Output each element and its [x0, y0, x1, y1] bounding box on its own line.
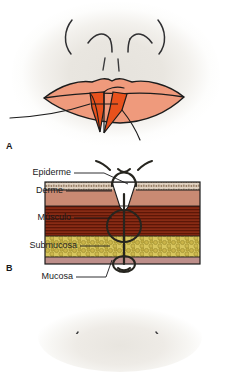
- panel-a-illustration: [0, 0, 241, 160]
- suture-knot: [118, 169, 130, 172]
- layer-mucosa: [45, 257, 200, 264]
- suture-tail-left: [96, 161, 110, 170]
- panel-c-nose-outline: [73, 332, 162, 334]
- panel-c: [0, 296, 241, 334]
- panel-a: A: [0, 0, 241, 160]
- panel-c-illustration: [0, 296, 241, 334]
- label-epiderme: Epiderme: [0, 167, 71, 177]
- panel-b: Epiderme Derme Músculo Submucosa Mucosa: [0, 160, 241, 288]
- nose-outline: [65, 20, 164, 54]
- panel-a-label: A: [6, 141, 13, 151]
- nostril-marks: [103, 58, 119, 71]
- panel-b-illustration: [0, 160, 241, 288]
- suture-tail-right: [138, 161, 152, 170]
- suture-mucosa-knot: [118, 268, 130, 270]
- label-derme: Derme: [0, 185, 63, 195]
- label-submucosa: Submucosa: [0, 240, 77, 250]
- label-musculo: Músculo: [0, 212, 71, 222]
- panel-b-label: B: [6, 263, 13, 273]
- tissue-block: [45, 182, 200, 264]
